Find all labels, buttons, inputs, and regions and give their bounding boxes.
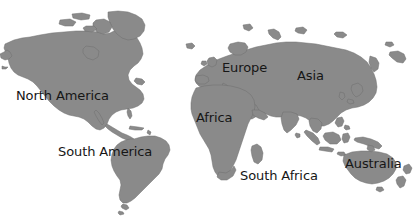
region-philippines-south [344,125,350,130]
region-wrangel-island [385,42,394,47]
world-map-svg [0,0,416,218]
region-java [319,147,334,152]
region-aleutian-islands [2,66,8,69]
continent-south-america [111,136,170,203]
region-newfoundland [134,78,145,85]
world-map: North America South America Europe Asia … [0,0,416,218]
region-caribbean-islands [129,126,144,130]
region-india [281,112,299,133]
region-iberia [195,75,209,84]
continent-north-america [4,29,144,130]
region-sulawesi [342,133,350,143]
region-new-zealand-north [403,164,412,174]
region-florida [127,108,132,119]
region-tierra-del-fuego [118,211,124,215]
region-british-isles [207,57,217,67]
region-arctic-island-siberia [334,32,347,38]
region-new-zealand-south [396,176,406,188]
region-severnaya-zemlya [295,27,307,34]
region-arctic-island-c [83,26,97,32]
region-arctic-island-b [59,19,76,26]
region-philippines [335,117,344,127]
region-novaya-zemlya [268,29,281,40]
region-chukotka [389,51,406,63]
region-sri-lanka [295,133,300,138]
region-svalbard [243,24,253,31]
region-tasmania [376,187,384,192]
continent-australia [343,151,396,184]
region-madagascar [251,144,263,164]
region-arctic-island-a [72,13,90,20]
region-lesser-antilles [147,130,151,135]
region-ireland [201,61,207,66]
continent-africa [191,85,255,177]
region-borneo [323,132,341,144]
region-patagonia-tip [121,204,129,210]
region-iceland [186,43,195,49]
